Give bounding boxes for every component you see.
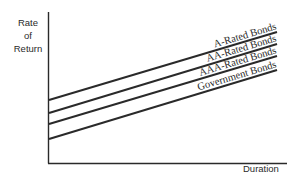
plot-area: A-Rated Bonds AA-Rated Bonds AAA-Rated B… <box>0 0 303 185</box>
line-government <box>49 70 277 139</box>
yield-curve-chart: Rate of Return A-Rated Bonds AA-Rated Bo… <box>0 0 303 185</box>
x-axis-label: Duration <box>243 163 279 174</box>
